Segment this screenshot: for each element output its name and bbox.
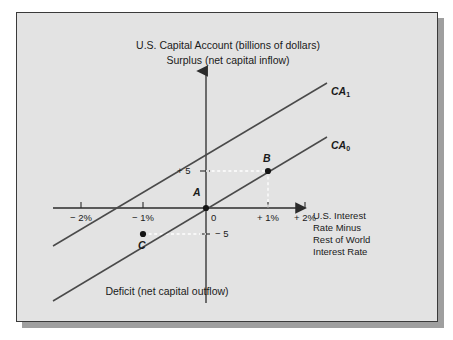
point-label-c: C [138,239,146,252]
x-axis-label: U.S. Interest Rate Minus Rest of World I… [313,210,370,258]
x-tick-label-minus2: − 2% [61,212,101,224]
y-tick-label-plus5: + 5 [177,165,190,177]
x-axis-label-line-4: Interest Rate [313,246,370,258]
chart-title: U.S. Capital Account (billions of dollar… [17,39,439,52]
curve-label-ca0-base: CA [331,139,346,151]
point-a-marker [203,205,209,211]
x-axis-label-line-1: U.S. Interest [313,210,370,222]
y-tick-label-minus5: − 5 [215,228,228,240]
point-label-a: A [193,186,201,199]
x-tick-label-zero: 0 [211,212,216,224]
point-b-marker [265,168,271,174]
chart-subtitle: Surplus (net capital inflow) [17,54,439,67]
x-tick-label-minus1: − 1% [123,212,163,224]
y-tick-marks [200,171,210,234]
chart-figure: U.S. Capital Account (billions of dollar… [0,0,453,340]
curve-label-ca0-sub: 0 [346,145,350,152]
point-c-marker [140,231,146,237]
curve-label-ca0: CA0 [331,139,350,152]
chart-panel: U.S. Capital Account (billions of dollar… [16,12,438,322]
x-tick-marks [81,202,305,208]
x-axis-label-line-2: Rate Minus [313,222,370,234]
curve-label-ca1-sub: 1 [346,91,350,98]
curve-label-ca1: CA1 [331,85,350,98]
x-axis-label-line-3: Rest of World [313,234,370,246]
curve-label-ca1-base: CA [331,85,346,97]
x-tick-label-plus1: + 1% [248,212,288,224]
chart-bottom-label: Deficit (net capital outflow) [17,285,317,298]
point-label-b: B [263,152,271,165]
